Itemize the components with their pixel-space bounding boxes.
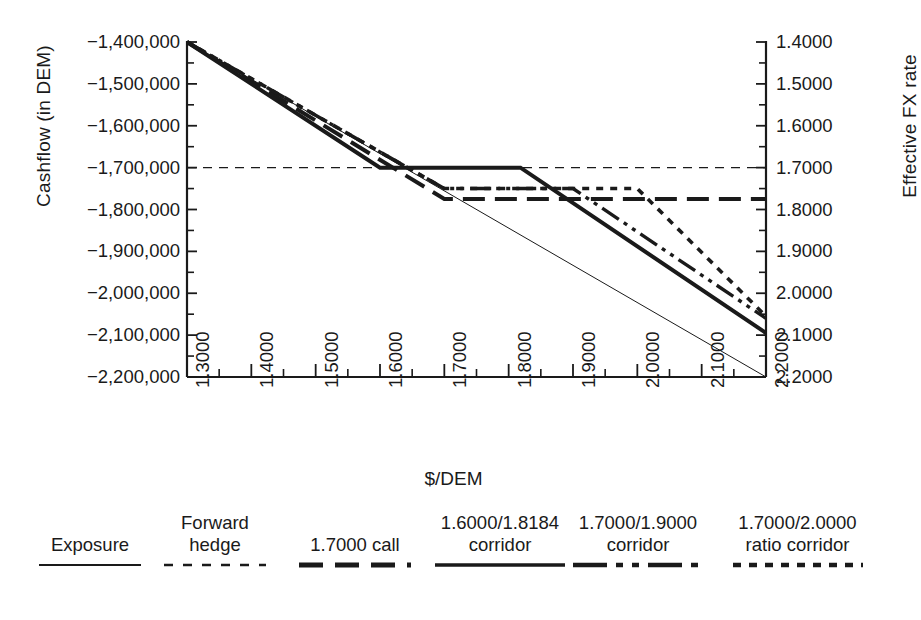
y-tick-label-right: 1.8000 <box>776 201 833 220</box>
y-tick-label-left: −1,400,000 <box>87 33 180 52</box>
legend-item[interactable]: 1.7000 call <box>290 534 420 568</box>
series-line-3 <box>187 42 766 333</box>
y-tick-label-right: 1.9000 <box>776 242 833 261</box>
legend-swatch-thin-dashed-icon <box>164 560 266 568</box>
legend-label: 1.6000/1.8184 <box>425 512 575 534</box>
series-line-4 <box>187 42 766 318</box>
legend-swatch-thick-solid-icon <box>435 560 565 568</box>
legend-item[interactable]: 1.7000/1.9000corridor <box>563 512 713 568</box>
x-tick-label: 1.7000 <box>451 331 470 388</box>
x-tick-label: 1.6000 <box>387 331 406 388</box>
legend-label: 1.7000/2.0000 <box>710 512 885 534</box>
chart-legend: ExposureForwardhedge1.7000 call1.6000/1.… <box>0 512 907 607</box>
legend-item[interactable]: 1.7000/2.0000ratio corridor <box>710 512 885 568</box>
legend-label: hedge <box>155 534 275 556</box>
legend-swatch-thick-dashed-icon <box>299 560 411 568</box>
x-tick-label: 1.9000 <box>580 331 599 388</box>
series-line-5 <box>187 42 766 316</box>
legend-label: Exposure <box>30 534 150 556</box>
y-tick-label-left: −1,600,000 <box>87 117 180 136</box>
x-tick-label: 2.1000 <box>709 331 728 388</box>
y-tick-label-right: 2.0000 <box>776 284 833 303</box>
y-tick-label-left: −1,700,000 <box>87 159 180 178</box>
legend-item[interactable]: Exposure <box>30 534 150 568</box>
y-tick-label-left: −1,800,000 <box>87 201 180 220</box>
y-axis-title-right: Effective FX rate <box>899 16 921 236</box>
x-tick-label: 1.4000 <box>258 331 277 388</box>
legend-swatch-dash-dot-dot-icon <box>573 560 703 568</box>
y-axis-ticks-left: −1,400,000−1,500,000−1,600,000−1,700,000… <box>0 0 180 400</box>
y-tick-label-right: 1.5000 <box>776 75 833 94</box>
legend-swatch-thick-dotted-icon <box>733 560 863 568</box>
y-tick-label-right: 1.4000 <box>776 33 833 52</box>
x-tick-label: 2.0000 <box>644 331 663 388</box>
y-tick-label-right: 1.6000 <box>776 117 833 136</box>
x-tick-label: 2.2000 <box>773 331 792 388</box>
y-tick-label-left: −2,000,000 <box>87 284 180 303</box>
legend-label: 1.7000/1.9000 <box>563 512 713 534</box>
series-line-2 <box>187 42 766 199</box>
x-axis-title: $/DEM <box>0 468 907 490</box>
legend-swatch-thin-solid-icon <box>39 560 141 568</box>
legend-label: corridor <box>425 534 575 556</box>
legend-label: 1.7000 call <box>290 534 420 556</box>
y-tick-label-left: −1,900,000 <box>87 242 180 261</box>
x-tick-label: 1.8000 <box>516 331 535 388</box>
legend-label: ratio corridor <box>710 534 885 556</box>
legend-item[interactable]: 1.6000/1.8184corridor <box>425 512 575 568</box>
legend-item[interactable]: Forwardhedge <box>155 512 275 568</box>
y-tick-label-right: 1.7000 <box>776 159 833 178</box>
y-tick-label-left: −2,200,000 <box>87 368 180 387</box>
legend-label: Forward <box>155 512 275 534</box>
x-tick-label: 1.3000 <box>194 331 213 388</box>
y-axis-ticks-right: 1.40001.50001.60001.70001.80001.90002.00… <box>776 0 896 400</box>
legend-label: corridor <box>563 534 713 556</box>
y-tick-label-left: −1,500,000 <box>87 75 180 94</box>
series-line-0 <box>187 42 766 377</box>
x-tick-label: 1.5000 <box>323 331 342 388</box>
y-tick-label-left: −2,100,000 <box>87 326 180 345</box>
